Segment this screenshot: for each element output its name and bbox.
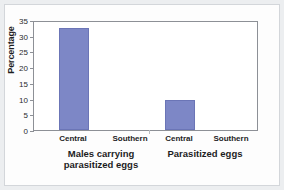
x-axis-group-label: Parasitized eggs bbox=[143, 148, 267, 159]
y-axis-tick-mark bbox=[30, 68, 34, 69]
y-axis-tick-label: 10 bbox=[19, 96, 28, 105]
y-axis-tick-mark bbox=[30, 115, 34, 116]
x-axis-category-label: Southern bbox=[191, 134, 271, 143]
y-axis-tick-mark bbox=[30, 131, 34, 132]
y-axis-tick-mark bbox=[30, 100, 34, 101]
y-axis-title: Percentage bbox=[6, 14, 16, 86]
y-axis-tick-mark bbox=[30, 37, 34, 38]
y-axis-tick-label: 20 bbox=[19, 64, 28, 73]
bar bbox=[165, 100, 195, 130]
figure-frame: Percentage 05101520253035 CentralSouther… bbox=[0, 0, 284, 190]
y-axis-tick-label: 5 bbox=[24, 111, 28, 120]
y-axis-tick-mark bbox=[30, 21, 34, 22]
y-axis-tick-mark bbox=[30, 52, 34, 53]
y-axis-tick-label: 35 bbox=[19, 17, 28, 26]
x-axis-group-label-line: Parasitized eggs bbox=[143, 148, 267, 159]
plot-area: 05101520253035 bbox=[33, 21, 258, 131]
y-axis-tick-label: 0 bbox=[24, 127, 28, 136]
bar bbox=[59, 28, 89, 130]
y-axis-tick-label: 15 bbox=[19, 80, 28, 89]
y-axis-tick-label: 25 bbox=[19, 48, 28, 57]
y-axis-tick-label: 30 bbox=[19, 33, 28, 42]
bar-chart: Percentage 05101520253035 CentralSouther… bbox=[0, 0, 284, 190]
y-axis-tick-mark bbox=[30, 84, 34, 85]
x-axis-group-label-line: parasitized eggs bbox=[39, 159, 163, 170]
